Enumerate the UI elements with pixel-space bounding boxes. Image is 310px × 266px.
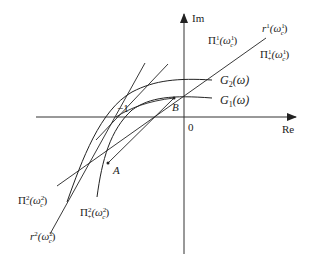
r1-line	[57, 38, 266, 186]
pi1-tangent-line	[96, 64, 168, 140]
r1-label: r1(ω1c)	[262, 22, 288, 37]
point-a-label: A	[112, 164, 120, 176]
x-axis-label: Re	[282, 123, 294, 135]
y-axis-label: Im	[192, 12, 205, 24]
g1-curve	[97, 97, 212, 197]
r2-label: r2(ω2c)	[30, 230, 56, 245]
pi1-plus-label: Π1+(ω1c)	[260, 48, 289, 63]
point-a	[107, 162, 110, 165]
pi2-plus-label: Π2+(ω2c)	[80, 206, 109, 221]
point-b-label: B	[172, 101, 179, 113]
nyquist-diagram: Im Re 0 −1 A B G2(ω) G1(ω) r1(ω1c) Π1−(ω…	[0, 0, 310, 266]
pi2-minus-label: Π2−(ω2c)	[18, 194, 47, 209]
g2-curve	[67, 79, 212, 202]
g1-label: G1(ω)	[220, 93, 249, 109]
pi1-minus-label: Π1−(ω1c)	[208, 34, 237, 49]
minus-one-label: −1	[117, 102, 129, 114]
g2-label: G2(ω)	[220, 73, 249, 89]
point-b	[173, 97, 176, 100]
origin-label: 0	[188, 121, 194, 133]
